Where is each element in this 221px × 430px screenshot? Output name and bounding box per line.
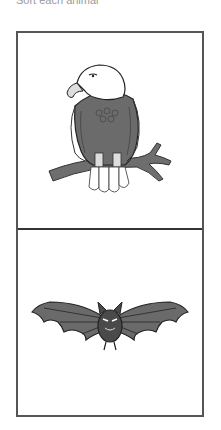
animal-card-grid: eagle xyxy=(16,31,204,417)
eagle-icon xyxy=(45,61,175,201)
animal-cell-eagle[interactable]: eagle xyxy=(18,33,202,230)
bat-icon xyxy=(30,288,190,358)
instruction-heading: Sort each animal xyxy=(16,0,206,6)
instruction-subline xyxy=(16,21,202,29)
animal-cell-bat[interactable]: bat xyxy=(18,230,202,415)
